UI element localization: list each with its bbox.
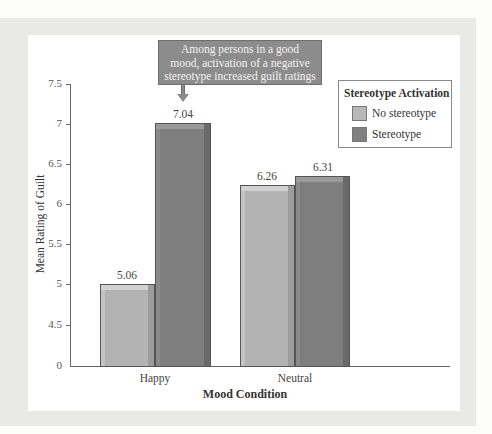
y-tick bbox=[66, 84, 70, 85]
bar-side bbox=[204, 124, 210, 366]
legend-label: No stereotype bbox=[372, 107, 436, 119]
bar-face bbox=[245, 191, 288, 366]
bar-value-label: 5.06 bbox=[99, 269, 155, 281]
legend-item-no-stereotype: No stereotype bbox=[352, 105, 436, 121]
legend: Stereotype Activation No stereotype Ster… bbox=[338, 80, 452, 148]
bar-value-label: 6.26 bbox=[239, 170, 295, 182]
callout-line-1: Among persons in a good bbox=[159, 43, 321, 57]
legend-title: Stereotype Activation bbox=[344, 87, 450, 99]
x-category-label: Happy bbox=[105, 372, 205, 384]
y-tick bbox=[66, 244, 70, 245]
x-axis-title: Mood Condition bbox=[185, 387, 305, 402]
y-axis-line bbox=[70, 84, 71, 366]
legend-swatch-light bbox=[352, 106, 367, 121]
y-tick bbox=[66, 204, 70, 205]
annotation-callout: Among persons in a good mood, activation… bbox=[158, 40, 322, 85]
y-tick bbox=[66, 284, 70, 285]
bar-face bbox=[105, 290, 148, 366]
arrow-down-icon bbox=[177, 94, 189, 102]
bar-neutral-stereotype bbox=[295, 176, 350, 367]
y-tick-label: 0 bbox=[32, 360, 62, 371]
y-tick-label: 7 bbox=[32, 118, 62, 129]
bar-face bbox=[300, 182, 343, 366]
callout-line-2: mood, activation of a negative bbox=[159, 57, 321, 71]
legend-swatch-dark bbox=[352, 127, 367, 142]
x-category-label: Neutral bbox=[245, 372, 345, 384]
callout-line-3: stereotype increased guilt ratings bbox=[159, 70, 321, 84]
y-tick-label: 4.5 bbox=[32, 319, 62, 330]
y-tick bbox=[66, 124, 70, 125]
bar-face bbox=[160, 129, 204, 366]
bar-happy-no-stereotype bbox=[100, 284, 155, 367]
bar-side bbox=[288, 186, 294, 366]
bar-side bbox=[343, 177, 349, 366]
bar-side bbox=[148, 285, 154, 366]
y-axis-title: Mean Rating of Guilt bbox=[34, 164, 46, 284]
y-tick bbox=[66, 164, 70, 165]
legend-item-stereotype: Stereotype bbox=[352, 126, 421, 142]
bar-value-label: 6.31 bbox=[295, 161, 351, 173]
bar-value-label: 7.04 bbox=[155, 108, 211, 120]
bar-happy-stereotype bbox=[155, 123, 211, 367]
y-tick bbox=[66, 325, 70, 326]
bar-neutral-no-stereotype bbox=[240, 185, 295, 367]
legend-label: Stereotype bbox=[372, 128, 421, 140]
y-tick-label: 7.5 bbox=[32, 78, 62, 89]
